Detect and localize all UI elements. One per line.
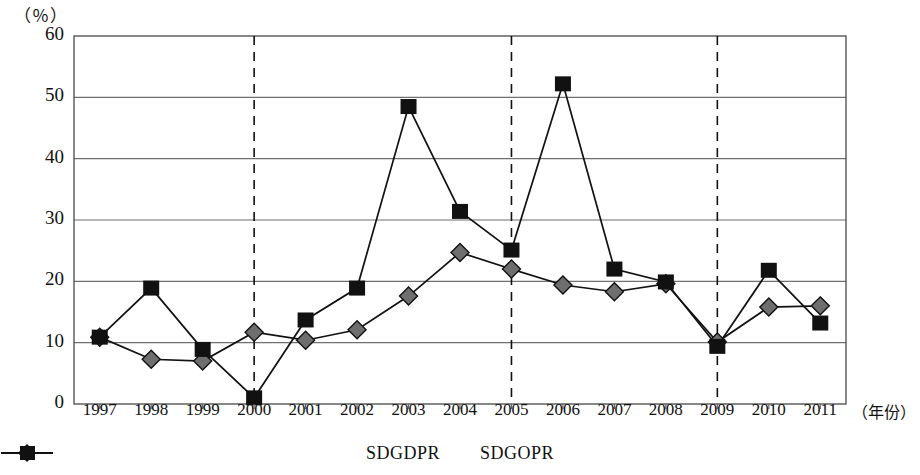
data-point-sdgopr-2003: [401, 99, 417, 114]
data-point-sdgdpr-2010: [760, 298, 778, 316]
legend-label-sdgopr: SDGOPR: [480, 443, 554, 464]
data-point-sdgopr-2005: [503, 243, 519, 258]
data-point-sdgdpr-1998: [142, 350, 160, 368]
data-point-sdgopr-1999: [195, 342, 211, 357]
legend-label-sdgdpr: SDGDPR: [366, 443, 440, 464]
data-point-sdgopr-2008: [658, 274, 674, 289]
data-point-sdgdpr-2000: [245, 323, 263, 341]
legend-marker-square-icon: [0, 443, 54, 463]
data-point-sdgopr-2006: [555, 76, 571, 91]
data-point-sdgdpr-2006: [554, 276, 572, 294]
data-point-sdgopr-2007: [606, 262, 622, 277]
data-point-sdgdpr-2007: [605, 283, 623, 301]
data-point-sdgopr-2001: [298, 312, 314, 327]
chart-legend: SDGDPR SDGOPR: [0, 443, 920, 464]
data-point-sdgdpr-2011: [811, 297, 829, 315]
data-point-sdgopr-2010: [761, 263, 777, 278]
y-axis-tick-40: 40: [18, 146, 64, 168]
data-point-sdgopr-2009: [709, 339, 725, 354]
data-point-sdgopr-2002: [349, 281, 365, 296]
x-axis-tick-2011: 2011: [790, 400, 850, 420]
data-point-sdgdpr-2001: [297, 331, 315, 349]
y-axis-tick-0: 0: [18, 391, 64, 413]
chart-container: （％） （年份） 0102030405060 19971998199920002…: [0, 0, 920, 475]
data-point-sdgdpr-2002: [348, 321, 366, 339]
y-axis-tick-50: 50: [18, 84, 64, 106]
y-axis-tick-30: 30: [18, 207, 64, 229]
data-point-sdgopr-1998: [143, 281, 159, 296]
data-point-sdgopr-2004: [452, 204, 468, 219]
legend-item-sdgdpr: SDGDPR: [366, 443, 440, 464]
data-point-sdgopr-2011: [812, 316, 828, 331]
legend-item-sdgopr: SDGOPR: [480, 443, 554, 464]
data-point-sdgdpr-2005: [502, 260, 520, 278]
data-point-sdgopr-1997: [92, 330, 108, 345]
y-axis-tick-20: 20: [18, 268, 64, 290]
y-axis-tick-60: 60: [18, 23, 64, 45]
y-axis-tick-10: 10: [18, 330, 64, 352]
